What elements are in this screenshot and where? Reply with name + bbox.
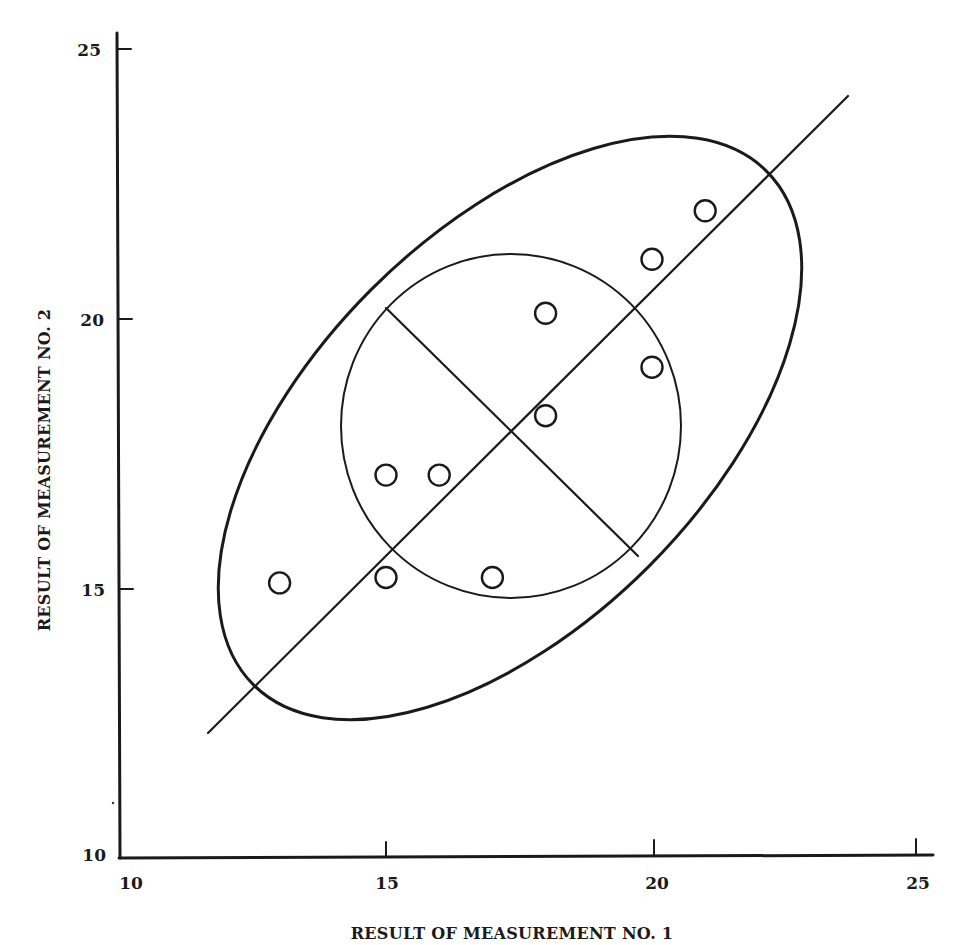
x-tick-label-10: 10: [119, 873, 143, 893]
y-tick-label-20: 20: [80, 310, 104, 330]
data-point: [642, 357, 663, 378]
outer-ellipse: [115, 33, 906, 824]
data-point: [482, 567, 503, 588]
y-axis-line: [117, 33, 120, 858]
data-points: [269, 200, 716, 593]
inner-circle: [341, 254, 681, 598]
y-tick-labels: 25 20 15 10: [77, 40, 106, 865]
y-tick-label-15: 15: [81, 580, 105, 600]
x-tick-label-15: 15: [375, 873, 399, 893]
y-axis-title: RESULT OF MEASUREMENT NO. 2: [35, 309, 54, 632]
y-tick-label-25: 25: [77, 40, 101, 60]
scan-speck: [112, 802, 114, 804]
data-point: [376, 567, 397, 588]
x-tick-label-25: 25: [906, 873, 930, 893]
x-tick-label-20: 20: [645, 873, 669, 893]
data-point: [695, 200, 716, 221]
data-point: [429, 465, 450, 486]
scatter-chart: 25 20 15 10 10 15 20 25 RESULT OF MEASUR…: [0, 0, 959, 945]
data-point: [535, 405, 556, 426]
data-point: [642, 249, 663, 270]
data-point: [535, 303, 556, 324]
data-point: [269, 572, 290, 593]
x-axis-title: RESULT OF MEASUREMENT NO. 1: [351, 924, 674, 943]
x-tick-labels: 10 15 20 25: [119, 873, 930, 893]
major-axis-line: [208, 96, 848, 733]
y-tick-label-10: 10: [82, 845, 106, 865]
data-point: [376, 465, 397, 486]
x-axis-line: [119, 855, 933, 858]
